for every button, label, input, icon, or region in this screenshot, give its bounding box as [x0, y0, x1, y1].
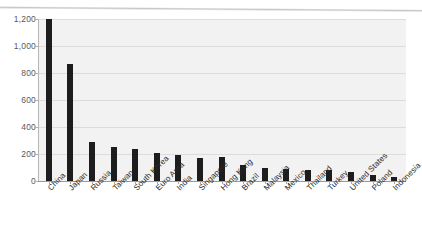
x-axis-tick-mark [114, 181, 115, 184]
x-axis-tick-mark [135, 181, 136, 184]
x-axis-tick-mark [157, 181, 158, 184]
x-axis-tick-mark [329, 181, 330, 184]
x-axis-tick-mark [265, 181, 266, 184]
x-axis-tick-mark [49, 181, 50, 184]
x-axis-tick-mark [286, 181, 287, 184]
bar-chart: COMPOSITION OF RESERVES 1,2001,000800600… [0, 0, 422, 252]
x-axis-tick-mark [178, 181, 179, 184]
x-axis-tick-mark [222, 181, 223, 184]
x-axis-category-labels: ChinaJapanRussiaTaiwanSouth KoreaEuro Ar… [0, 0, 422, 252]
x-axis-tick-mark [373, 181, 374, 184]
x-axis-tick-mark [351, 181, 352, 184]
x-axis-tick-mark [70, 181, 71, 184]
x-axis-category-label: Indonesia [391, 161, 422, 193]
x-axis-tick-mark [308, 181, 309, 184]
x-axis-tick-mark [200, 181, 201, 184]
x-axis-tick-mark [92, 181, 93, 184]
x-axis-tick-mark [394, 181, 395, 184]
x-axis-tick-mark [243, 181, 244, 184]
